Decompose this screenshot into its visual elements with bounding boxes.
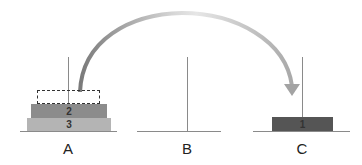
peg-a-base — [20, 131, 117, 132]
peg-b-label: B — [182, 140, 192, 157]
peg-b-rod — [187, 57, 188, 131]
peg-b-base — [137, 131, 221, 132]
arrow-arc — [80, 13, 292, 92]
disk-1-label: 1 — [300, 119, 306, 130]
disk-1: 1 — [272, 117, 333, 131]
peg-c-label: C — [297, 140, 308, 157]
disk-2-label: 2 — [66, 106, 72, 117]
arrow-head-icon — [284, 84, 300, 96]
disk-3: 3 — [27, 118, 111, 131]
disk-3-label: 3 — [66, 119, 72, 130]
ghost-disk-outline — [37, 90, 100, 104]
disk-2: 2 — [31, 104, 107, 118]
peg-c-base — [253, 131, 350, 132]
peg-a-label: A — [63, 140, 73, 157]
